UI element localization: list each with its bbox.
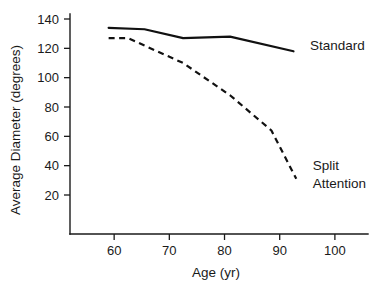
x-tick-label: 90: [272, 243, 286, 258]
series-label-split: Split: [313, 158, 340, 173]
y-tick-label: 100: [37, 70, 59, 85]
y-tick-label: 140: [37, 12, 59, 27]
line-chart-canvas: 20406080100120140 60708090100 Standard S…: [0, 0, 375, 290]
x-tick-label: 80: [217, 243, 231, 258]
series-line-standard: [109, 28, 294, 51]
x-tick-label: 100: [324, 243, 346, 258]
series-label-standard: Standard: [310, 38, 365, 53]
y-tick-label: 120: [37, 41, 59, 56]
y-tick-label: 20: [45, 188, 59, 203]
y-tick-label: 40: [45, 158, 59, 173]
x-axis-tick-labels: 60708090100: [107, 243, 346, 258]
y-axis-title: Average Diameter (degrees): [8, 45, 23, 215]
series-label-attention: Attention: [313, 176, 366, 191]
y-axis-ticks: [64, 19, 70, 195]
x-tick-label: 60: [107, 243, 121, 258]
y-axis-tick-labels: 20406080100120140: [37, 12, 59, 203]
x-axis-title: Age (yr): [192, 265, 240, 280]
x-tick-label: 70: [162, 243, 176, 258]
series-line-split-attention: [109, 38, 297, 179]
x-axis-ticks: [114, 234, 335, 240]
y-tick-label: 80: [45, 100, 59, 115]
chart-figure: 20406080100120140 60708090100 Standard S…: [0, 0, 375, 290]
y-tick-label: 60: [45, 129, 59, 144]
